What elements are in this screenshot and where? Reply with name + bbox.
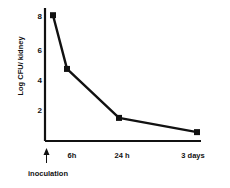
data-point-marker (64, 66, 70, 72)
inoculation-label: inoculation (28, 169, 68, 178)
data-point-marker (116, 115, 122, 121)
x-tick-3days: 3 days (181, 151, 204, 160)
y-tick-6: 6 (38, 46, 43, 55)
y-tick-2: 2 (38, 106, 43, 115)
y-axis-title: Log CFU/ kidney (16, 36, 25, 96)
data-line (53, 15, 197, 132)
y-tick-8: 8 (38, 12, 43, 21)
x-tick-24h: 24 h (114, 151, 129, 160)
y-tick-4: 4 (38, 76, 43, 85)
data-point-marker (194, 129, 200, 135)
x-tick-6h: 6h (68, 151, 77, 160)
chart: 8 6 4 2 Log CFU/ kidney 6h 24 h 3 days i… (0, 0, 230, 188)
data-point-marker (50, 12, 56, 18)
arrow-up-icon (44, 148, 50, 163)
